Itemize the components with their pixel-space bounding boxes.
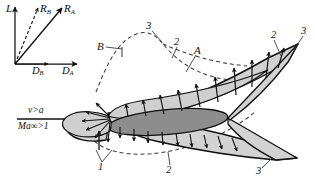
resultant-b-vector-arrow	[15, 8, 38, 64]
resultant-a-vector-arrow	[15, 8, 62, 64]
upper-shock-curve	[96, 33, 230, 92]
figure-canvas: L RB RA DB DA v>a Ma∞>1 A B 3 2 2 3 1 2 …	[0, 0, 315, 178]
callout-two-upper-right: 2	[271, 30, 276, 41]
label-drag-b: DB	[32, 66, 44, 77]
leader-line-a	[186, 55, 196, 72]
callout-three-upper-right: 3	[301, 26, 306, 37]
callout-region-a: A	[194, 45, 201, 56]
label-lift: L	[6, 3, 12, 14]
force-vector-inset	[15, 7, 77, 64]
leader-line-three-upper-right	[294, 36, 303, 50]
callout-two-upper-left: 2	[174, 37, 179, 48]
callout-three-bottom-right: 3	[256, 166, 261, 177]
label-drag-a-subscript: A	[70, 69, 74, 76]
callout-region-b: B	[97, 41, 104, 52]
label-drag-b-subscript: B	[40, 69, 44, 76]
callout-three-top: 3	[146, 21, 151, 32]
label-drag-a: DA	[62, 66, 74, 77]
callout-one: 1	[98, 162, 103, 173]
label-resultant-b: RB	[40, 3, 51, 15]
label-resultant-a-subscript: A	[71, 8, 75, 15]
airfoil-leading-lobe	[63, 112, 112, 137]
label-velocity-condition: v>a	[28, 106, 43, 116]
label-resultant-b-subscript: B	[47, 8, 51, 15]
label-resultant-a: RA	[64, 3, 75, 15]
leader-line-b	[106, 47, 122, 49]
callout-two-left-bottom: 2	[166, 165, 171, 176]
leader-line-three-top	[152, 31, 162, 42]
diagram-svg	[0, 0, 315, 178]
label-mach-condition: Ma∞>1	[18, 122, 49, 132]
